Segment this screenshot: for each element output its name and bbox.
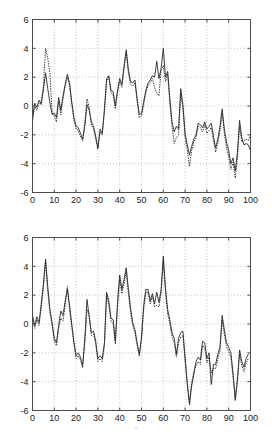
x-tick-label: 40: [115, 413, 125, 423]
plot-bottom: 0102030405060708090100-6-4-20246: [0, 218, 272, 433]
y-tick-label: 6: [23, 15, 28, 25]
series-solid: [33, 256, 249, 404]
chart-panel-top: 0102030405060708090100-6-4-20246: [0, 0, 272, 215]
x-tick-label: 80: [202, 413, 212, 423]
y-tick-label: -4: [20, 159, 28, 169]
y-tick-label: -6: [20, 406, 28, 416]
x-tick-label: 50: [136, 413, 146, 423]
figure-container: 0102030405060708090100-6-4-20246 0102030…: [0, 0, 272, 437]
gridlines: [33, 20, 251, 193]
x-tick-label: 0: [30, 195, 35, 205]
series-group: [33, 48, 251, 178]
y-tick-label: 6: [23, 233, 28, 243]
x-tick-label: 60: [158, 195, 168, 205]
y-tick-label: -2: [20, 348, 28, 358]
x-tick-label: 70: [180, 195, 190, 205]
scan-artifact: ^: [0, 424, 272, 432]
x-tick-label: 40: [115, 195, 125, 205]
y-tick-label: 2: [23, 290, 28, 300]
x-tick-label: 90: [224, 413, 234, 423]
x-tick-label: 70: [180, 413, 190, 423]
x-tick-label: 0: [30, 413, 35, 423]
y-tick-label: -6: [20, 188, 28, 198]
series-dotted: [33, 261, 249, 402]
y-tick-label: 0: [23, 319, 28, 329]
y-tick-label: 0: [23, 101, 28, 111]
x-tick-label: 30: [93, 413, 103, 423]
x-tick-label: 50: [136, 195, 146, 205]
series-group: [33, 256, 249, 404]
x-tick-label: 60: [158, 413, 168, 423]
axis-ticks: 0102030405060708090100-6-4-20246: [20, 233, 258, 423]
chart-panel-bottom: 0102030405060708090100-6-4-20246: [0, 218, 272, 433]
x-tick-label: 90: [224, 195, 234, 205]
gridlines: [33, 238, 251, 411]
x-tick-label: 80: [202, 195, 212, 205]
x-tick-label: 20: [71, 413, 81, 423]
x-tick-label: 30: [93, 195, 103, 205]
y-tick-label: 4: [23, 44, 28, 54]
y-tick-label: 4: [23, 262, 28, 272]
x-tick-label: 10: [49, 413, 59, 423]
x-tick-label: 20: [71, 195, 81, 205]
x-tick-label: 100: [243, 413, 258, 423]
y-tick-label: -2: [20, 130, 28, 140]
x-tick-label: 100: [243, 195, 258, 205]
plot-top: 0102030405060708090100-6-4-20246: [0, 0, 272, 215]
y-tick-label: 2: [23, 72, 28, 82]
x-tick-label: 10: [49, 195, 59, 205]
y-tick-label: -4: [20, 377, 28, 387]
